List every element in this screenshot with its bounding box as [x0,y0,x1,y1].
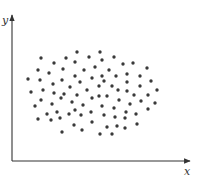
data-point [146,107,149,110]
data-point [93,65,96,68]
data-point [115,124,118,127]
data-point [110,132,113,135]
data-point [52,91,55,94]
data-point [51,82,54,85]
data-point [112,106,115,109]
data-point [62,92,65,95]
data-point [45,112,48,115]
data-point [39,56,42,59]
data-point [79,113,82,116]
data-point [105,125,108,128]
data-point [121,62,124,65]
scatter-points [26,50,158,135]
data-point [110,84,113,87]
data-point [78,80,81,83]
data-point [50,102,53,105]
data-point [68,85,71,88]
data-point [29,90,32,93]
data-point [38,78,41,81]
data-point [98,50,101,53]
data-point [138,84,141,87]
data-point [67,112,70,115]
data-point [61,67,64,70]
data-point [85,88,88,91]
data-point [55,110,58,113]
data-point [90,96,93,99]
data-point [98,132,101,135]
data-point [97,84,100,87]
data-point [145,66,148,69]
data-point [153,101,156,104]
data-point [113,115,116,118]
data-point [102,79,105,82]
data-point [26,77,29,80]
data-point [125,89,128,92]
data-point [60,78,63,81]
data-point [60,130,63,133]
data-point [39,98,42,101]
data-point [82,68,85,71]
data-point [123,116,126,119]
data-point [155,88,158,91]
data-point [58,116,61,119]
data-point [135,122,138,125]
data-point [100,58,103,61]
data-point [131,61,134,64]
data-point [125,72,128,75]
data-point [132,93,135,96]
data-point [36,117,39,120]
data-point [90,76,93,79]
y-axis-label: y [1,14,9,27]
data-point [116,88,119,91]
scatter-chart: y x [0,0,199,179]
data-point [49,118,52,121]
data-point [80,128,83,131]
data-point [105,94,108,97]
data-point [123,126,126,129]
data-point [73,108,76,111]
data-point [72,123,75,126]
data-point [124,110,127,113]
data-point [36,68,39,71]
data-point [117,98,120,101]
data-point [87,55,90,58]
data-point [75,50,78,53]
data-point [47,71,50,74]
data-point [134,112,137,115]
data-point [59,96,62,99]
data-point [125,80,128,83]
data-point [81,103,84,106]
data-point [33,104,36,107]
data-point [149,79,152,82]
data-point [97,94,100,97]
data-point [100,104,103,107]
data-point [89,110,92,113]
data-point [139,99,142,102]
data-point [138,74,141,77]
data-point [64,56,67,59]
data-point [73,60,76,63]
data-point [73,74,76,77]
data-point [70,100,73,103]
x-axis-label: x [184,165,191,178]
data-point [146,93,149,96]
data-point [41,88,44,91]
data-point [75,93,78,96]
data-point [90,120,93,123]
data-point [128,102,131,105]
data-point [114,74,117,77]
data-point [112,55,115,58]
data-point [100,74,103,77]
data-point [107,68,110,71]
data-point [102,113,105,116]
data-point [52,61,55,64]
